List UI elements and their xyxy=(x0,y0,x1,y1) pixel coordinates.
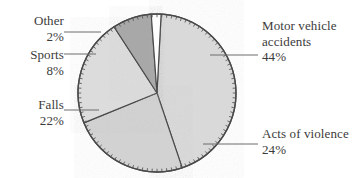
slice-label-other-name: Other xyxy=(2,13,64,29)
slice-label-violence-percent: 24% xyxy=(262,142,358,158)
slice-label-violence-name: Acts of violence xyxy=(262,126,358,142)
slice-label-motor-name-line2: accidents xyxy=(262,34,358,50)
slice-label-sports-percent: 8% xyxy=(2,63,64,79)
pie-slices-group xyxy=(78,14,236,172)
slice-label-acts-of-violence: Acts of violence 24% xyxy=(262,126,358,157)
slice-label-falls-name: Falls xyxy=(2,97,64,113)
slice-label-motor-vehicle-accidents: Motor vehicle accidents 44% xyxy=(262,18,358,65)
pie-chart-figure: Other 2% Sports 8% Falls 22% Motor vehic… xyxy=(0,0,359,178)
slice-label-falls: Falls 22% xyxy=(2,97,64,128)
slice-label-motor-name-line1: Motor vehicle xyxy=(262,18,358,34)
slice-label-other: Other 2% xyxy=(2,13,64,44)
slice-label-falls-percent: 22% xyxy=(2,113,64,129)
slice-label-other-percent: 2% xyxy=(2,29,64,45)
slice-label-motor-percent: 44% xyxy=(262,49,358,65)
slice-label-sports-name: Sports xyxy=(2,47,64,63)
slice-label-sports: Sports 8% xyxy=(2,47,64,78)
